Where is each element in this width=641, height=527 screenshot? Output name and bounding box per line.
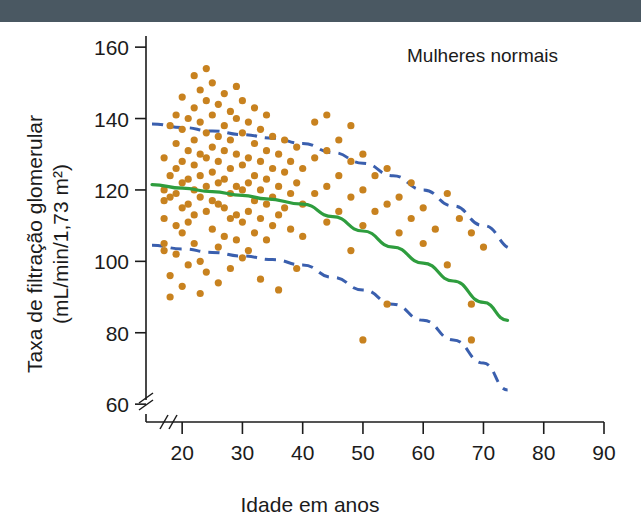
scatter-point-125	[299, 165, 306, 172]
scatter-point-32	[191, 136, 198, 143]
y-axis-title-line1: Taxa de filtração glomerular	[23, 115, 46, 373]
scatter-point-88	[245, 119, 252, 126]
scatter-point-82	[239, 97, 246, 104]
scatter-point-158	[444, 190, 451, 197]
scatter-point-62	[215, 244, 222, 251]
scatter-point-141	[347, 247, 354, 254]
scatter-point-136	[335, 172, 342, 179]
scatter-point-80	[233, 211, 240, 218]
scatter-point-75	[227, 265, 234, 272]
scatter-point-37	[197, 86, 204, 93]
scatter-point-2	[161, 197, 168, 204]
scatter-point-112	[275, 151, 282, 158]
scatter-point-45	[203, 97, 210, 104]
scatter-point-25	[185, 147, 192, 154]
scatter-point-52	[209, 111, 216, 118]
scatter-point-115	[275, 286, 282, 293]
scatter-point-90	[245, 179, 252, 186]
scatter-point-127	[299, 233, 306, 240]
scatter-point-10	[167, 293, 174, 300]
scatter-point-64	[221, 90, 228, 97]
scatter-point-11	[173, 111, 180, 118]
scatter-point-84	[239, 161, 246, 168]
scatter-point-105	[263, 176, 270, 183]
scatter-point-152	[396, 229, 403, 236]
scatter-point-146	[371, 172, 378, 179]
scatter-point-19	[179, 158, 186, 165]
scatter-point-30	[191, 72, 198, 79]
scatter-point-149	[384, 201, 391, 208]
scatter-point-7	[167, 172, 174, 179]
scatter-point-46	[203, 129, 210, 136]
scatter-point-31	[191, 104, 198, 111]
scatter-point-98	[257, 126, 264, 133]
scatter-point-77	[233, 115, 240, 122]
scatter-point-130	[311, 190, 318, 197]
scatter-point-50	[203, 269, 210, 276]
scatter-point-41	[197, 194, 204, 201]
scatter-point-108	[269, 133, 276, 140]
scatter-point-70	[227, 108, 234, 115]
scatter-point-119	[287, 158, 294, 165]
scatter-point-151	[396, 194, 403, 201]
y-tick-label-140: 140	[94, 108, 129, 131]
scatter-point-109	[269, 165, 276, 172]
scatter-point-145	[359, 336, 366, 343]
scatter-point-94	[251, 140, 258, 147]
scatter-point-29	[185, 261, 192, 268]
scatter-point-0	[161, 154, 168, 161]
scatter-point-147	[371, 208, 378, 215]
scatter-point-71	[227, 136, 234, 143]
x-tick-label-90: 90	[592, 441, 615, 464]
scatter-point-28	[185, 219, 192, 226]
scatter-point-157	[432, 226, 439, 233]
scatter-point-48	[203, 183, 210, 190]
scatter-point-78	[233, 151, 240, 158]
scatter-point-159	[444, 261, 451, 268]
scatter-point-97	[251, 229, 258, 236]
scatter-point-131	[323, 111, 330, 118]
scatter-point-128	[311, 119, 318, 126]
scatter-point-27	[185, 201, 192, 208]
scatter-point-137	[335, 208, 342, 215]
scatter-point-83	[239, 129, 246, 136]
scatter-point-142	[359, 151, 366, 158]
scatter-point-134	[323, 219, 330, 226]
scatter-point-154	[408, 215, 415, 222]
scatter-point-51	[209, 79, 216, 86]
scatter-point-132	[323, 147, 330, 154]
scatter-point-111	[269, 222, 276, 229]
scatter-point-107	[263, 236, 270, 243]
scatter-point-40	[197, 172, 204, 179]
x-tick-label-60: 60	[412, 441, 435, 464]
scatter-point-150	[384, 301, 391, 308]
scatter-point-58	[215, 133, 222, 140]
y-tick-label-60: 60	[106, 393, 129, 416]
x-tick-label-70: 70	[472, 441, 495, 464]
scatter-point-3	[161, 215, 168, 222]
x-tick-label-50: 50	[351, 441, 374, 464]
scatter-point-63	[215, 279, 222, 286]
figure-root: 6080100120140160 2030405060708090 Mulher…	[0, 0, 641, 527]
scatter-point-123	[293, 179, 300, 186]
scatter-point-138	[347, 122, 354, 129]
scatter-point-139	[347, 158, 354, 165]
scatter-point-36	[191, 240, 198, 247]
x-tick-label-80: 80	[532, 441, 555, 464]
scatter-point-140	[347, 194, 354, 201]
scatter-point-18	[179, 126, 186, 133]
scatter-point-95	[251, 172, 258, 179]
scatter-point-162	[468, 301, 475, 308]
x-tick-label-30: 30	[231, 441, 254, 464]
y-tick-label-120: 120	[94, 179, 129, 202]
scatter-point-67	[221, 176, 228, 183]
scatter-point-55	[209, 197, 216, 204]
scatter-point-100	[257, 186, 264, 193]
scatter-point-38	[197, 119, 204, 126]
scatter-point-104	[263, 147, 270, 154]
scatter-point-8	[167, 194, 174, 201]
scatter-point-121	[287, 226, 294, 233]
scatter-point-66	[221, 147, 228, 154]
scatter-point-53	[209, 144, 216, 151]
scatter-point-101	[257, 215, 264, 222]
